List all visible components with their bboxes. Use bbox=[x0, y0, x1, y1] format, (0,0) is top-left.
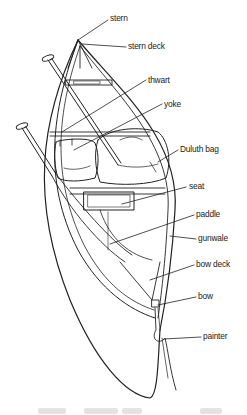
label-bow: bow bbox=[198, 290, 213, 301]
label-stern-deck: stern deck bbox=[128, 40, 165, 51]
label-yoke: yoke bbox=[164, 98, 181, 109]
leader-lines bbox=[62, 20, 201, 339]
label-painter: painter bbox=[203, 330, 227, 341]
label-thwart: thwart bbox=[148, 74, 170, 85]
label-bow-deck: bow deck bbox=[196, 258, 230, 269]
label-seat: seat bbox=[189, 180, 204, 191]
label-gunwale: gunwale bbox=[198, 232, 228, 243]
cropped-caption bbox=[0, 402, 247, 415]
canoe-diagram: stern stern deck thwart yoke Duluth bag … bbox=[0, 0, 247, 415]
label-duluth-bag: Duluth bag bbox=[180, 143, 219, 154]
label-stern: stern bbox=[110, 12, 128, 23]
label-paddle: paddle bbox=[196, 208, 220, 219]
